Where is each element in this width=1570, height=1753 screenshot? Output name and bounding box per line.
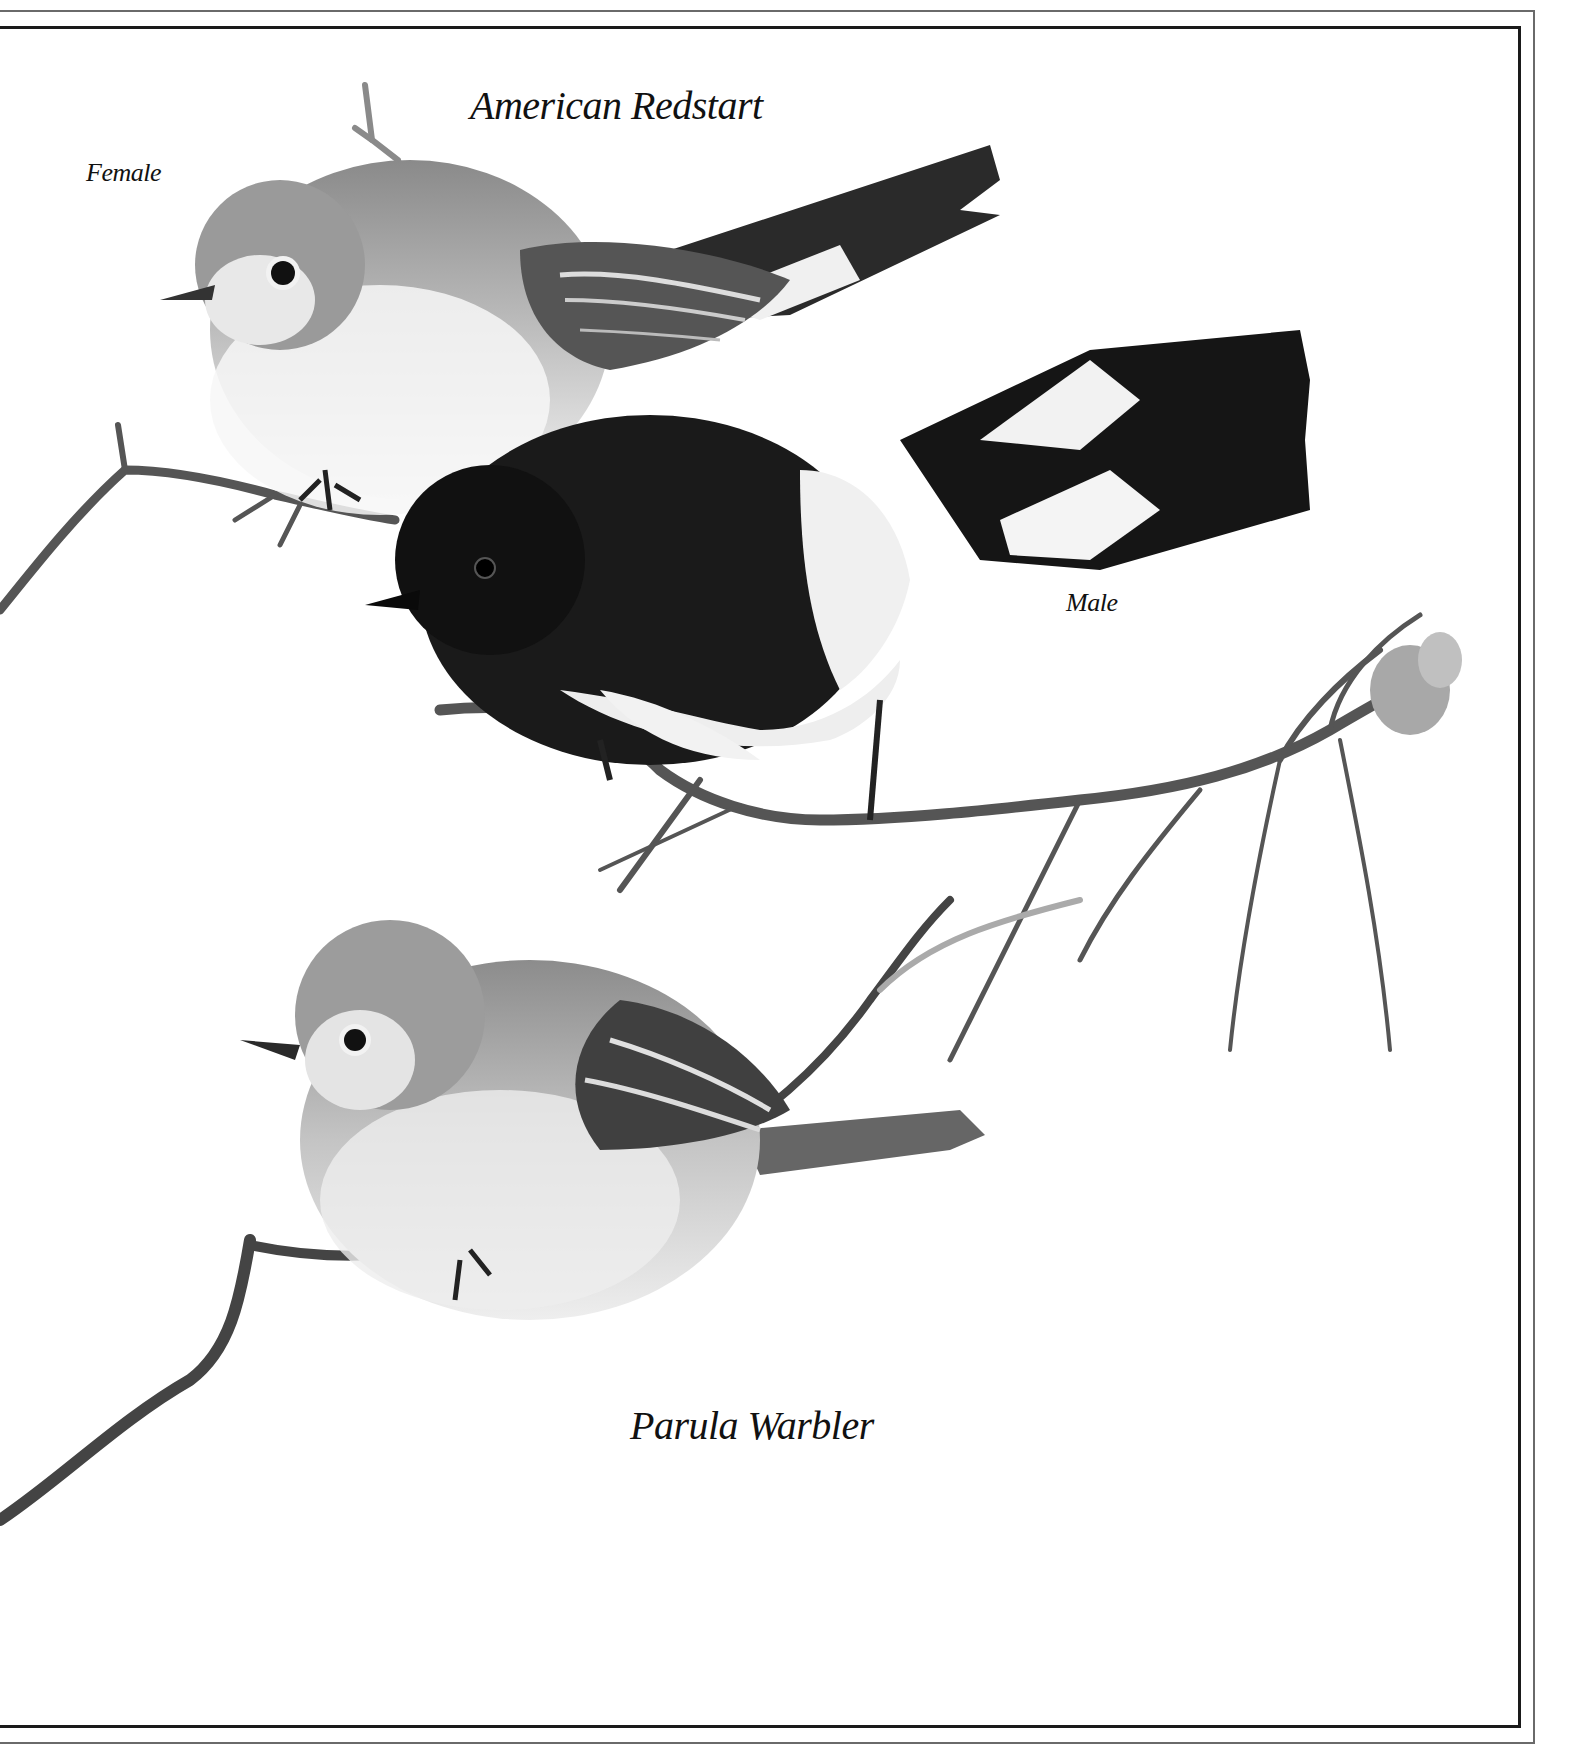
species-title-parula-warbler: Parula Warbler <box>630 1402 874 1449</box>
bird-illustration <box>0 0 1570 1753</box>
lichen-tuft <box>1370 632 1462 735</box>
parula-warbler <box>240 920 985 1320</box>
species-title-american-redstart: American Redstart <box>470 82 763 129</box>
label-male: Male <box>1066 588 1117 618</box>
label-female: Female <box>86 158 161 188</box>
